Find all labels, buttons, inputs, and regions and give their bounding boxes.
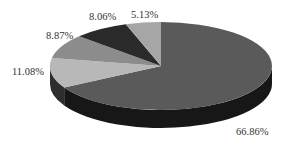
label-slice-66: 66.86%	[236, 126, 268, 137]
label-slice-5-13: 5.13%	[131, 9, 158, 20]
label-slice-8-06: 8.06%	[89, 11, 116, 22]
label-slice-8-87: 8.87%	[46, 30, 73, 41]
label-slice-11: 11.08%	[12, 66, 44, 77]
